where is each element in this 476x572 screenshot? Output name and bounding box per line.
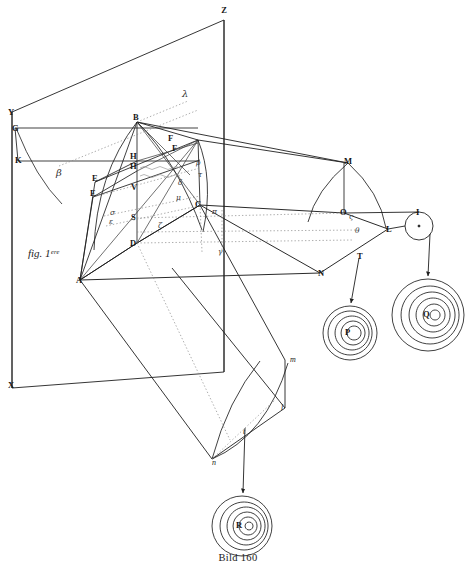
label-Y: Y (8, 107, 14, 117)
label-delta: δ (178, 178, 183, 187)
circle-I-center (418, 225, 420, 227)
curved-cap-right (308, 163, 386, 228)
cap-arc-M-right (348, 163, 386, 228)
figure-caption: Bild 160 (0, 552, 476, 563)
label-E-upper: E (92, 173, 98, 183)
guide-D-t (137, 243, 230, 440)
O-to-I-link (344, 212, 419, 213)
label-C: C (195, 199, 201, 209)
guide-S-O (137, 213, 344, 218)
n-to-l (212, 408, 285, 459)
guide-lambda-beta (59, 110, 198, 166)
arc-n-m-outer (212, 363, 288, 459)
label-N: N (318, 268, 325, 278)
label-G: G (12, 123, 19, 133)
vertex-label-group: G K B H H E E V S D A C F F M O L N T I … (12, 112, 430, 530)
label-Z: Z (221, 5, 227, 15)
label-D: D (130, 238, 136, 248)
label-H-lower: H (130, 161, 137, 171)
label-K: K (15, 155, 22, 165)
label-M: M (344, 156, 352, 166)
edge-top-to-M (198, 140, 348, 163)
figure-root: Z Y X G K B H H E E V S D A C F F M O L … (0, 0, 476, 572)
label-theta: θ (355, 226, 360, 235)
label-S: S (131, 212, 136, 222)
label-F-lower: F (172, 143, 177, 153)
arc-n-m (212, 361, 260, 459)
mid-to-l (172, 268, 285, 408)
label-l: l (281, 403, 284, 412)
C-to-m (200, 205, 285, 360)
left-body-lines (80, 122, 200, 280)
N-to-L (320, 229, 388, 273)
dotted-guides (59, 101, 360, 459)
label-n: n (212, 458, 216, 467)
guide-theta (137, 230, 360, 232)
Q-ring-5 (430, 310, 440, 320)
label-R: R (236, 520, 243, 530)
label-H-upper: H (130, 151, 137, 161)
D-to-C (137, 205, 200, 243)
label-mu: μ (176, 193, 181, 202)
label-rho: ρ (195, 158, 201, 167)
label-zeta: ζ (158, 221, 163, 230)
plane-quad (12, 20, 224, 388)
label-P: P (345, 327, 350, 337)
label-X: X (8, 380, 15, 390)
squiggle-2 (140, 175, 180, 178)
label-epsilon: ε (109, 217, 113, 226)
A-to-n (80, 280, 212, 459)
E2-ray (93, 160, 200, 197)
E2-to-A (80, 197, 93, 280)
arrow-t-to-R (243, 428, 245, 493)
label-beta: β (55, 167, 62, 178)
R-ring-5 (245, 522, 253, 530)
label-E-lower: E (90, 188, 96, 198)
lower-cap-arcs (212, 361, 288, 459)
label-O: O (340, 207, 347, 217)
label-Q: Q (423, 309, 430, 319)
guide-epsilon (106, 206, 198, 226)
projection-plane (12, 20, 224, 388)
plane-arc-beta (16, 128, 62, 204)
guide-B-lambda (137, 101, 188, 122)
top-back-rail (80, 205, 344, 280)
bottom-front-rail (80, 273, 320, 280)
arc-beta (16, 128, 62, 204)
label-L: L (386, 224, 392, 234)
label-F-upper: F (168, 133, 173, 143)
guide-sigma (104, 196, 200, 216)
greek-label-group: λ β δ σ ε ζ π γ θ μ ρ τ ς (55, 88, 360, 256)
guide-D-level (137, 240, 352, 243)
label-T: T (357, 251, 363, 261)
label-t: t (243, 427, 246, 436)
interior-rays (80, 122, 200, 280)
label-sigma: σ (110, 208, 116, 217)
label-tau: τ (198, 170, 203, 179)
arrow-connectors (243, 234, 430, 493)
geometric-diagram: Z Y X G K B H H E E V S D A C F F M O L … (0, 0, 476, 572)
label-A: A (76, 275, 83, 285)
arrow-I-to-Q (428, 234, 430, 276)
label-lambda: λ (181, 88, 188, 99)
A-to-D (80, 243, 137, 280)
label-m: m (290, 355, 296, 364)
label-V: V (131, 182, 138, 192)
figure-inline-label: fig. 1ᵉʳᵉ (28, 247, 60, 259)
H-to-top (137, 143, 198, 161)
label-gamma: γ (218, 247, 223, 256)
arrow-T-to-P (351, 258, 359, 303)
label-B: B (133, 112, 139, 122)
